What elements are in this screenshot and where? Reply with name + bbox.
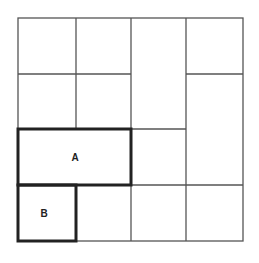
grid-diagram xyxy=(0,0,259,263)
region-b-label: B xyxy=(40,208,47,219)
region-a-label: A xyxy=(71,152,78,163)
